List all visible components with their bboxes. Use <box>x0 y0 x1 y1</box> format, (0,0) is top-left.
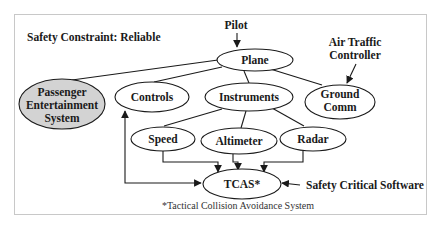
node-controls: Controls <box>115 82 189 112</box>
svg-text:Instruments: Instruments <box>219 91 280 103</box>
pilot-label: Pilot <box>225 19 248 31</box>
tcas-safety-diagram: Safety Constraint: Reliable Pilot Air Tr… <box>0 0 441 230</box>
svg-text:Controls: Controls <box>131 91 174 103</box>
svg-text:Passenger: Passenger <box>37 86 86 99</box>
svg-text:Altimeter: Altimeter <box>215 135 262 147</box>
svg-text:TCAS*: TCAS* <box>224 178 261 190</box>
node-instruments: Instruments <box>205 83 293 111</box>
plane-to-instruments-edge <box>244 71 249 83</box>
plane-to-controls-edge <box>154 67 222 82</box>
svg-text:Radar: Radar <box>297 133 328 145</box>
instruments-to-speed-edge <box>164 109 222 126</box>
node-tcas: TCAS* <box>203 169 281 199</box>
node-speed: Speed <box>131 127 195 151</box>
atc-label-line2: Controller <box>329 49 381 61</box>
tcas-footnote: *Tactical Collision Avoidance System <box>162 200 314 211</box>
svg-text:Ground: Ground <box>321 88 360 100</box>
svg-text:Comm: Comm <box>323 101 357 113</box>
instruments-to-radar-edge <box>272 108 304 126</box>
node-passenger-entertainment-system: Passenger Entertainment System <box>19 79 105 129</box>
node-ground-comm: Ground Comm <box>305 85 375 119</box>
scs-to-tcas-arrow <box>282 183 300 185</box>
svg-text:Entertainment: Entertainment <box>26 99 98 111</box>
safety-constraint-title: Safety Constraint: Reliable <box>27 31 161 44</box>
safety-critical-software-label: Safety Critical Software <box>306 179 424 192</box>
node-altimeter: Altimeter <box>201 128 277 154</box>
svg-text:System: System <box>44 112 80 125</box>
atc-to-ground-arrow <box>347 64 356 83</box>
speed-to-tcas-arrow <box>163 150 218 172</box>
radar-to-tcas-arrow <box>264 151 303 172</box>
plane-to-pes-edge <box>72 60 218 80</box>
svg-text:Plane: Plane <box>241 54 268 66</box>
node-plane: Plane <box>217 49 293 71</box>
instruments-to-altimeter-edge <box>241 111 246 128</box>
atc-label-line1: Air Traffic <box>329 36 382 48</box>
svg-text:Speed: Speed <box>148 133 178 146</box>
node-radar: Radar <box>280 127 346 151</box>
plane-to-ground-edge <box>267 68 322 85</box>
altimeter-to-tcas-arrow <box>233 154 238 170</box>
